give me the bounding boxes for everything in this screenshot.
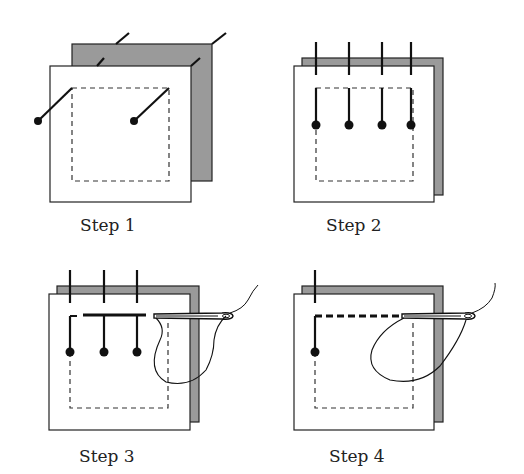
step-3-panel: Step 3 bbox=[49, 270, 258, 466]
thread bbox=[230, 285, 258, 313]
step-4-panel: Step 4 bbox=[294, 270, 495, 466]
needle-icon bbox=[154, 313, 233, 319]
sewing-steps-diagram: Step 1 Step 2 bbox=[0, 0, 524, 474]
step-label: Step 3 bbox=[79, 446, 135, 466]
thread bbox=[472, 283, 495, 313]
step-1-panel: Step 1 bbox=[34, 33, 226, 235]
step-2-panel: Step 2 bbox=[294, 42, 443, 235]
step-label: Step 2 bbox=[326, 215, 382, 235]
step-label: Step 4 bbox=[329, 446, 385, 466]
needle-icon bbox=[402, 313, 475, 319]
step-label: Step 1 bbox=[80, 215, 136, 235]
